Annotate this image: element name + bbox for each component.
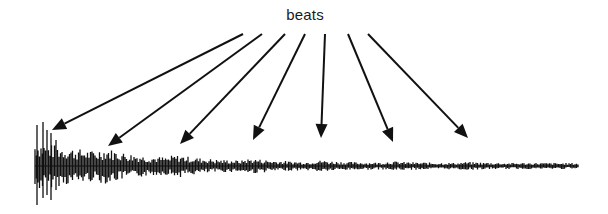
beat-diagram bbox=[0, 0, 608, 214]
beat-arrow-3 bbox=[190, 34, 285, 134]
arrowhead-icon bbox=[316, 124, 328, 138]
beat-arrow-4 bbox=[259, 34, 305, 127]
beat-arrows bbox=[52, 34, 468, 146]
beat-arrow-1 bbox=[65, 34, 243, 124]
arrowhead-icon bbox=[108, 133, 123, 146]
beat-arrow-5 bbox=[322, 34, 325, 124]
